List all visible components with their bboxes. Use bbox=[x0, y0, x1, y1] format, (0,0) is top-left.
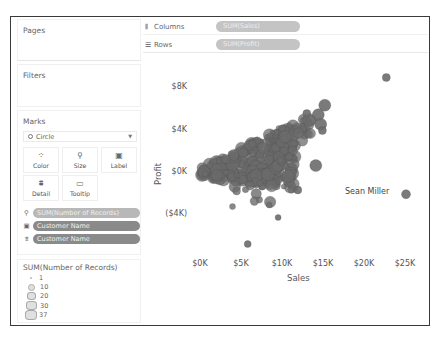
mark-type-dropdown[interactable]: Circle ▼ bbox=[23, 131, 137, 142]
label-button[interactable]: ▣ Label bbox=[101, 147, 137, 173]
y-axis-title: Profit bbox=[153, 163, 163, 185]
x-tick: $5K bbox=[224, 259, 258, 268]
label-icon: ▣ bbox=[102, 151, 136, 161]
detail-icon: ⩩ bbox=[24, 179, 58, 189]
data-point[interactable] bbox=[211, 170, 222, 181]
x-axis-title: Sales bbox=[287, 273, 310, 283]
data-point[interactable] bbox=[238, 161, 245, 168]
label-field-pill[interactable]: Customer Name bbox=[33, 221, 140, 231]
size-field-pill[interactable]: SUM(Number of Records) bbox=[33, 208, 140, 218]
data-point[interactable] bbox=[318, 127, 326, 135]
label-icon: ▣ bbox=[22, 222, 31, 230]
detail-pill-row: ⩩ Customer Name bbox=[22, 233, 140, 244]
y-tick: $4K bbox=[147, 125, 187, 134]
legend-title: SUM(Number of Records) bbox=[23, 263, 118, 272]
label-pill-row: ▣ Customer Name bbox=[22, 220, 140, 231]
data-point[interactable] bbox=[202, 171, 208, 177]
data-point[interactable] bbox=[249, 140, 257, 148]
data-point[interactable] bbox=[281, 184, 286, 189]
columns-shelf[interactable]: ⦀ Columns SUM(Sales) bbox=[143, 19, 428, 35]
filters-shelf[interactable]: Filters bbox=[17, 64, 141, 107]
data-point[interactable] bbox=[266, 202, 272, 208]
data-point[interactable] bbox=[306, 129, 316, 139]
detail-label: Detail bbox=[24, 190, 58, 197]
data-point[interactable] bbox=[277, 157, 284, 164]
detail-field-pill[interactable]: Customer Name bbox=[33, 234, 140, 244]
data-point[interactable] bbox=[293, 128, 304, 139]
tooltip-label: Tooltip bbox=[63, 190, 97, 197]
columns-icon: ⦀ bbox=[145, 23, 154, 31]
data-point[interactable] bbox=[257, 142, 268, 153]
data-point[interactable] bbox=[239, 175, 248, 184]
side-panels: Pages Filters Marks Circle ▼ ⁘ Color ⚲ S… bbox=[11, 17, 141, 325]
x-tick: $20K bbox=[347, 259, 381, 268]
size-swatch-icon bbox=[28, 284, 35, 291]
x-tick: $10K bbox=[265, 259, 299, 268]
rows-shelf[interactable]: ☰ Rows SUM(Profit) bbox=[143, 37, 428, 53]
legend-value: 20 bbox=[40, 292, 48, 300]
data-point[interactable] bbox=[221, 154, 230, 163]
filters-title: Filters bbox=[23, 71, 45, 80]
rows-icon: ☰ bbox=[145, 41, 154, 49]
detail-icon: ⩩ bbox=[22, 235, 31, 243]
color-button[interactable]: ⁘ Color bbox=[23, 147, 59, 173]
legend-item: 10 bbox=[26, 283, 48, 291]
color-label: Color bbox=[24, 162, 58, 169]
sean-miller-label: Sean Miller bbox=[345, 187, 389, 196]
pages-shelf[interactable]: Pages bbox=[17, 19, 141, 61]
legend-item: 37 bbox=[26, 310, 47, 320]
data-point[interactable] bbox=[290, 140, 297, 147]
marks-card: Marks Circle ▼ ⁘ Color ⚲ Size ▣ Label ⩩ … bbox=[17, 110, 141, 255]
size-swatch-icon bbox=[25, 310, 37, 320]
legend-item: 30 bbox=[26, 301, 48, 310]
rows-pill[interactable]: SUM(Profit) bbox=[216, 39, 300, 50]
data-point[interactable] bbox=[257, 180, 263, 186]
data-point[interactable] bbox=[279, 130, 292, 143]
size-swatch-icon bbox=[27, 292, 36, 300]
data-point[interactable] bbox=[294, 186, 302, 194]
data-point[interactable] bbox=[242, 186, 248, 192]
circle-icon bbox=[28, 134, 33, 139]
data-point[interactable] bbox=[402, 190, 411, 199]
data-point[interactable] bbox=[233, 187, 241, 195]
size-icon: ⚲ bbox=[22, 209, 31, 217]
legend-value: 10 bbox=[40, 283, 48, 291]
size-swatch-icon bbox=[30, 277, 32, 279]
columns-label: Columns bbox=[154, 23, 216, 31]
data-point[interactable] bbox=[239, 148, 248, 157]
tableau-workspace: Pages Filters Marks Circle ▼ ⁘ Color ⚲ S… bbox=[10, 16, 430, 326]
data-point[interactable] bbox=[250, 197, 259, 206]
legend-item: 20 bbox=[26, 292, 48, 300]
columns-pill[interactable]: SUM(Sales) bbox=[216, 21, 300, 32]
data-point[interactable] bbox=[275, 215, 281, 221]
size-button[interactable]: ⚲ Size bbox=[62, 147, 98, 173]
data-point[interactable] bbox=[207, 162, 213, 168]
data-point[interactable] bbox=[223, 170, 229, 176]
x-tick: $0K bbox=[183, 259, 217, 268]
data-point[interactable] bbox=[310, 160, 322, 172]
size-icon: ⚲ bbox=[63, 151, 97, 161]
pages-title: Pages bbox=[23, 26, 45, 35]
mark-type-value: Circle bbox=[36, 133, 54, 141]
rows-label: Rows bbox=[154, 41, 216, 49]
scatter-chart[interactable]: $8K $4K $0K ($4K) Profit $0K $5K $10K $1… bbox=[143, 57, 429, 323]
data-point[interactable] bbox=[234, 173, 239, 178]
data-point[interactable] bbox=[244, 241, 251, 248]
data-point[interactable] bbox=[282, 170, 295, 183]
chevron-down-icon: ▼ bbox=[128, 133, 132, 139]
tooltip-icon: ▭ bbox=[63, 179, 97, 189]
legend-value: 30 bbox=[40, 302, 48, 310]
data-point[interactable] bbox=[303, 110, 311, 118]
size-label: Size bbox=[63, 162, 97, 169]
x-tick: $25K bbox=[388, 259, 422, 268]
legend-value: 37 bbox=[39, 311, 47, 319]
detail-button[interactable]: ⩩ Detail bbox=[23, 175, 59, 201]
y-tick: ($4K) bbox=[147, 209, 187, 218]
size-legend: SUM(Number of Records) 1 10 20 30 37 bbox=[17, 259, 141, 323]
size-pill-row: ⚲ SUM(Number of Records) bbox=[22, 207, 140, 218]
data-point[interactable] bbox=[230, 204, 236, 210]
data-point[interactable] bbox=[382, 74, 390, 82]
tooltip-button[interactable]: ▭ Tooltip bbox=[62, 175, 98, 201]
marks-title: Marks bbox=[23, 117, 45, 126]
color-dots-icon: ⁘ bbox=[24, 151, 58, 161]
